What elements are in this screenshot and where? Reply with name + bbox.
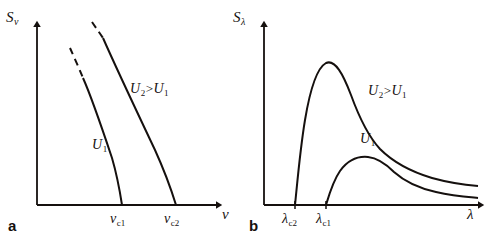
panel-b-x-axis-label: λ (467, 207, 474, 222)
panel-b-curve-u1 (326, 157, 478, 205)
panel-a-axes (37, 25, 218, 205)
panel-b-tick-label-lambda-c1: λc1 (316, 212, 331, 228)
panel-a-x-axis-label: ν (222, 207, 229, 222)
panel-a-y-axis-label: Sν (6, 10, 18, 27)
panel-b-label-u1: U1 (360, 132, 375, 148)
panel-a-curve-u2 (103, 38, 176, 205)
panel-a-label-u2-gt-u1: U2>U1 (130, 82, 169, 98)
panel-a-letter: a (8, 218, 16, 233)
panel-a-tick-label-nu-c1: νc1 (110, 212, 125, 228)
panel-b-axes (264, 25, 480, 205)
panel-a-curve-u1-dashed (70, 48, 83, 78)
figure-canvas: Sν ν νc1 νc2 U1 U2>U1 a Sλ λ λc2 λc1 U1 … (0, 0, 493, 247)
panel-b-label-u2-gt-u1: U2>U1 (368, 84, 407, 100)
panel-a-label-u1: U1 (92, 138, 107, 154)
panel-b-letter: b (249, 218, 258, 233)
panel-a-tick-label-nu-c2: νc2 (164, 212, 179, 228)
figure-vector (0, 0, 493, 247)
panel-a-curve-u2-dashed (92, 22, 103, 38)
panel-b-tick-label-lambda-c2: λc2 (282, 212, 297, 228)
panel-b-y-axis-label: Sλ (233, 10, 245, 27)
